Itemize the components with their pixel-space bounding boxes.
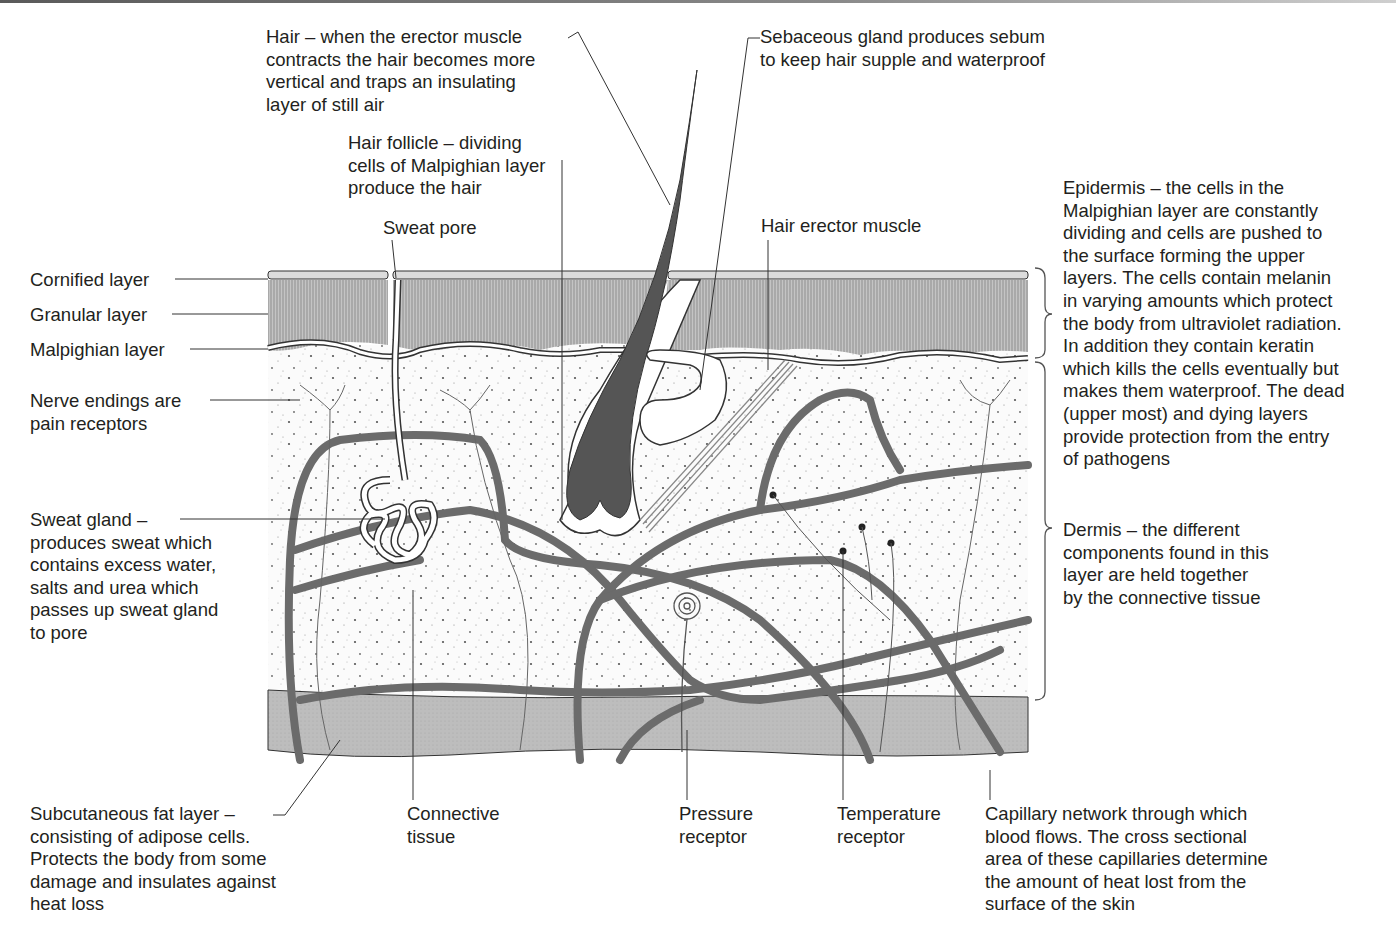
label-sweat-gland: Sweat gland – produces sweat which conta… [30, 509, 218, 645]
label-hair: Hair – when the erector muscle contracts… [266, 26, 535, 116]
label-capillary-network: Capillary network through which blood fl… [985, 803, 1268, 916]
epidermis-brace [1035, 268, 1052, 358]
layer-braces [1035, 268, 1052, 700]
label-hair-follicle: Hair follicle – dividing cells of Malpig… [348, 132, 545, 200]
cornified-layer [268, 271, 388, 279]
label-pressure-receptor: Pressure receptor [679, 803, 753, 848]
label-connective-tissue: Connective tissue [407, 803, 500, 848]
label-malpighian-layer: Malpighian layer [30, 339, 165, 362]
label-sweat-pore: Sweat pore [383, 217, 477, 240]
label-cornified-layer: Cornified layer [30, 269, 149, 292]
label-hair-erector-muscle: Hair erector muscle [761, 215, 921, 238]
label-epidermis: Epidermis – the cells in the Malpighian … [1063, 177, 1344, 471]
label-nerve-endings: Nerve endings are pain receptors [30, 390, 181, 435]
label-granular-layer: Granular layer [30, 304, 147, 327]
label-sebaceous-gland: Sebaceous gland produces sebum to keep h… [760, 26, 1045, 71]
label-dermis: Dermis – the different components found … [1063, 519, 1269, 609]
label-temperature-receptor: Temperature receptor [837, 803, 941, 848]
dermis-brace [1035, 362, 1052, 700]
label-subcutaneous-fat: Subcutaneous fat layer – consisting of a… [30, 803, 276, 916]
